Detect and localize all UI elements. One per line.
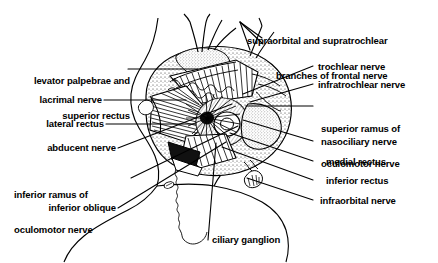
label-inferior-rectus: inferior rectus bbox=[326, 175, 388, 187]
label-ciliary-ganglion: ciliary ganglion bbox=[212, 234, 280, 246]
label-infraorbital-nerve: infraorbital nerve bbox=[320, 195, 396, 207]
label-inferior-ramus-line1: inferior ramus of bbox=[14, 189, 93, 201]
lacrimal-gland-fragment bbox=[138, 100, 153, 115]
nerve-stump-fragment bbox=[163, 181, 174, 190]
label-inferior-ramus-line2: oculomotor nerve bbox=[14, 224, 93, 236]
label-trochlear-nerve: trochlear nerve bbox=[318, 61, 385, 73]
label-nasociliary-nerve: nasociliary nerve bbox=[321, 136, 397, 148]
frontal-nerve-branches bbox=[184, 14, 236, 52]
label-levator-line1: levator palpebrae and bbox=[14, 75, 130, 87]
label-infratrochlear-nerve: infratrochlear nerve bbox=[318, 79, 405, 91]
label-lacrimal-nerve: lacrimal nerve bbox=[14, 94, 102, 106]
detached-muscle-fragment bbox=[244, 171, 262, 188]
label-abducent-nerve: abducent nerve bbox=[14, 142, 116, 154]
label-supraorbital-line1: supraorbital and supratrochlear bbox=[247, 35, 388, 47]
label-superior-ramus-line1: superior ramus of bbox=[321, 123, 400, 135]
label-medial-rectus: medial rectus bbox=[326, 156, 386, 168]
anatomical-figure: supraorbital and supratrochlear branches… bbox=[0, 0, 438, 263]
label-inferior-oblique: inferior oblique bbox=[14, 202, 116, 214]
label-lateral-rectus: lateral rectus bbox=[14, 118, 104, 130]
facial-bone-contour bbox=[157, 168, 288, 262]
suture-line bbox=[175, 166, 207, 244]
